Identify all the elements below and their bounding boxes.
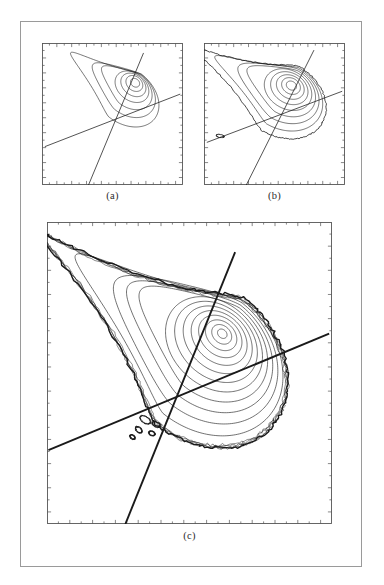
panel-b-svg: [204, 43, 345, 185]
panel-c-svg: [47, 222, 332, 524]
panel-a-caption: (a): [42, 190, 183, 201]
panel-a-axes-box: [43, 44, 183, 185]
panel-b-caption: (b): [204, 190, 345, 201]
figure-page: (a) (b) (c): [0, 0, 384, 585]
panel-c-caption: (c): [47, 530, 332, 541]
panel-c-contour-plot: [47, 222, 332, 524]
figure-outer-frame: (a) (b) (c): [20, 21, 362, 567]
panel-b-contour-plot: [204, 43, 345, 185]
panel-a-svg: [42, 43, 183, 185]
panel-a-contour-plot: [42, 43, 183, 185]
